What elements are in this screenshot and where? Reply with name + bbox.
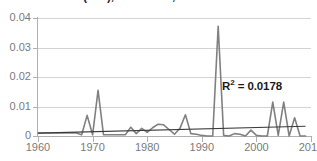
chart-container: (ARI), Accidents, 1960-2009 00.010.020.0… [0,0,317,161]
x-tick-label: 2000 [236,142,276,153]
x-tick-label: 2010 [291,142,317,153]
x-tick-label: 1960 [18,142,58,153]
x-axis-line [37,136,312,137]
x-tick-label: 1970 [73,142,113,153]
r-exponent: 2 [230,78,234,87]
y-tick-label: 0.01 [10,101,31,112]
x-tick-label: 1980 [127,142,167,153]
y-tick-label: 0 [25,130,31,141]
r-squared-value: = 0.0178 [238,80,282,92]
r-squared-annotation: R2 = 0.0178 [222,78,282,92]
y-tick-label: 0.03 [10,42,31,53]
y-tick-label: 0.04 [10,12,31,23]
r-symbol: R [222,80,230,92]
chart-title: (ARI), Accidents, 1960-2009 [0,0,317,3]
x-tick-label: 1990 [182,142,222,153]
chart-plot-svg [38,18,311,136]
y-tick-label: 0.02 [10,71,31,82]
